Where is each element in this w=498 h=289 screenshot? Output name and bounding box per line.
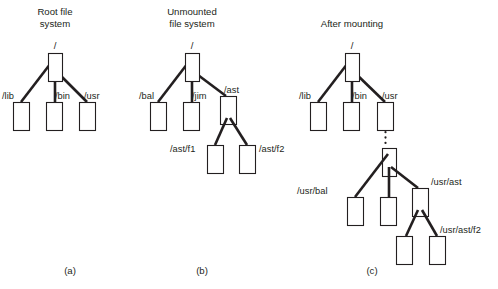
node-b-jim (184, 103, 200, 131)
edge-ast-to-f2 (230, 118, 247, 145)
edge-mounted-to-usr-ast (391, 167, 418, 188)
panel-a-caption: (a) (64, 265, 76, 276)
edge-usr-ast-to-f2 (422, 210, 437, 236)
node-c-root (346, 54, 360, 82)
panel-c-label-usr-ast: /usr/ast (431, 177, 462, 187)
panel-a-label-lib: /lib (2, 91, 14, 101)
panel-a-label-usr: /usr (84, 91, 100, 101)
panel-c-label-usr-ast-f2: /usr/ast/f2 (440, 225, 481, 235)
panel-b-label-ast-f2: /ast/f2 (259, 144, 284, 154)
node-c-usr-ast-f2 (430, 237, 446, 265)
panel-b-title-line2: file system (169, 18, 214, 29)
panel-b-label-jim: /jim (192, 91, 207, 101)
node-b-bal (151, 103, 167, 131)
node-b-ast-f1 (208, 146, 224, 174)
panel-c-title-line1: After mounting (321, 18, 383, 29)
panel-c-label-lib: /lib (299, 91, 311, 101)
node-c-usr-jim (381, 198, 397, 226)
panel-a-title-line2: system (40, 18, 70, 29)
panel-b: Unmounted file system / /bal /jim /ast /… (139, 6, 284, 276)
file-system-mount-diagram: Root file system / /lib /bin /usr (a) Un… (0, 0, 498, 289)
node-c-usr (378, 103, 394, 131)
panel-a-root-label: / (54, 40, 57, 51)
diagram-canvas: Root file system / /lib /bin /usr (a) Un… (0, 0, 498, 289)
panel-a-title-line1: Root file (37, 6, 72, 17)
panel-c-label-usr: /usr (382, 91, 398, 101)
panel-c-root-label: / (351, 40, 354, 51)
panel-b-label-bal: /bal (139, 91, 154, 101)
node-a-root (49, 54, 63, 82)
node-c-usr-ast-f1 (397, 237, 413, 265)
panel-b-caption: (b) (196, 265, 208, 276)
panel-b-root-label: / (191, 40, 194, 51)
node-c-bin (344, 103, 360, 131)
node-b-ast (221, 97, 237, 125)
panel-c-caption: (c) (366, 265, 377, 276)
panel-c-label-usr-bal: /usr/bal (297, 186, 328, 196)
panel-b-title-line1: Unmounted (167, 6, 217, 17)
panel-c: After mounting / /lib /bin /usr /usr/bal (297, 18, 481, 276)
node-c-usr-ast (413, 189, 429, 217)
panel-b-label-ast: /ast (224, 85, 239, 95)
node-a-bin (47, 103, 63, 131)
node-c-lib (311, 103, 327, 131)
node-b-ast-f2 (240, 146, 256, 174)
panel-b-label-ast-f1: /ast/f1 (170, 144, 195, 154)
panel-a: Root file system / /lib /bin /usr (a) (2, 6, 100, 276)
node-a-lib (14, 103, 30, 131)
node-c-usr-bal (348, 198, 364, 226)
panel-a-label-bin: /bin (55, 91, 70, 101)
panel-c-label-bin: /bin (352, 91, 367, 101)
node-b-root (186, 54, 200, 82)
node-a-usr (80, 103, 96, 131)
